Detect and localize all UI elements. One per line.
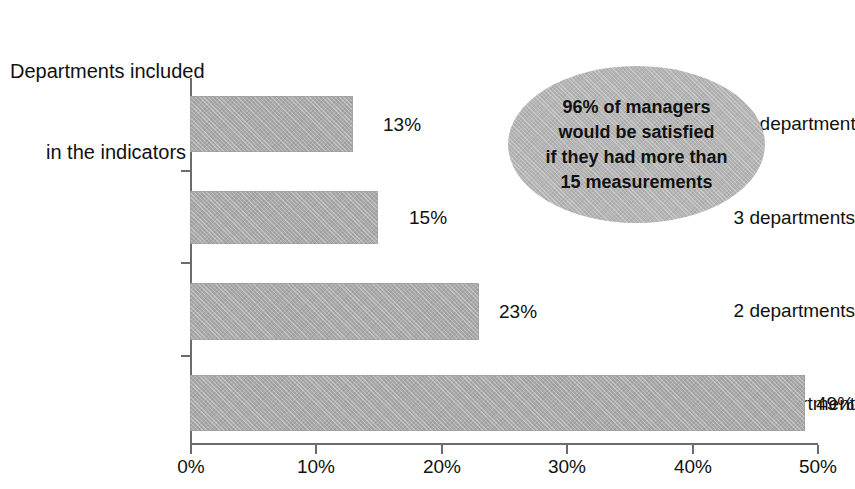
bar-1-department [190,375,805,431]
x-axis-tick-10 [315,445,317,454]
callout-ellipse: 96% of managers would be satisfied if th… [508,66,765,223]
x-axis-tick-0 [190,445,192,454]
bar-value-label-2-departments: 23% [499,302,537,321]
x-axis-line [190,443,818,445]
y-axis-tick-3 [181,355,190,357]
bar-2-departments [190,283,479,340]
x-axis-tick-40 [692,445,694,454]
x-axis-tick-label-0: 0% [177,457,204,476]
bar-4-or-more-departments [190,96,353,152]
bar-value-label-1-department: 49% [816,394,854,413]
bar-3-departments [190,191,378,244]
bar-chart-figure: Departments included in the indicators 4… [0,0,855,489]
bar-value-label-4-or-more-departments: 13% [383,115,421,134]
x-axis-tick-30 [566,445,568,454]
x-axis-tick-label-10: 10% [297,457,335,476]
x-axis-tick-label-30: 30% [548,457,586,476]
x-axis-tick-label-20: 20% [423,457,461,476]
y-axis-tick-1 [181,170,190,172]
x-axis-tick-50 [817,445,819,454]
bar-value-label-3-departments: 15% [409,208,447,227]
y-axis-tick-2 [181,262,190,264]
callout-text: 96% of managers would be satisfied if th… [537,95,735,195]
x-axis-tick-label-40: 40% [674,457,712,476]
x-axis-tick-label-50: 50% [799,457,837,476]
x-axis-tick-20 [441,445,443,454]
